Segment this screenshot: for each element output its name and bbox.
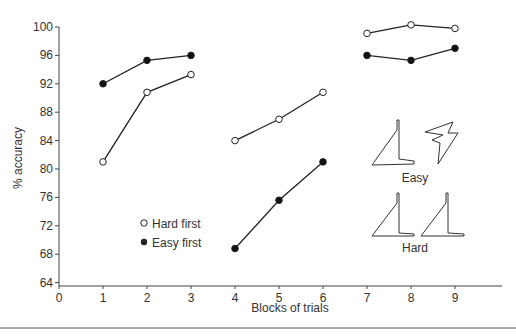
hard-figure-1-icon bbox=[372, 193, 414, 236]
y-tick-label: 84 bbox=[40, 134, 54, 148]
easy-first-point bbox=[364, 52, 371, 59]
easy-label: Easy bbox=[402, 171, 429, 185]
x-tick-label: 7 bbox=[364, 291, 371, 305]
series-line bbox=[235, 162, 323, 249]
hard-first-point bbox=[232, 137, 239, 144]
y-tick-label: 68 bbox=[40, 247, 54, 261]
hard-first-point bbox=[276, 116, 283, 123]
open-circle-icon bbox=[141, 220, 147, 226]
x-tick-label: 8 bbox=[408, 291, 415, 305]
y-tick-label: 92 bbox=[40, 77, 54, 91]
easy-first-point bbox=[188, 52, 195, 59]
hard-first-point bbox=[320, 89, 327, 96]
easy-figure-2-icon bbox=[425, 122, 458, 164]
easy-first-point bbox=[320, 159, 327, 166]
easy-first-point bbox=[276, 197, 283, 204]
hard-label: Hard bbox=[402, 241, 428, 255]
hard-first-point bbox=[100, 159, 107, 166]
hard-first-point bbox=[408, 22, 415, 29]
y-tick-label: 72 bbox=[40, 219, 54, 233]
easy-first-point bbox=[452, 45, 459, 52]
filled-circle-icon bbox=[141, 239, 147, 245]
y-tick-label: 80 bbox=[40, 162, 54, 176]
x-axis-label: Blocks of trials bbox=[251, 301, 328, 315]
x-tick-label: 1 bbox=[100, 291, 107, 305]
hard-first-point bbox=[188, 71, 195, 78]
x-tick-label: 2 bbox=[144, 291, 151, 305]
x-tick-label: 9 bbox=[452, 291, 459, 305]
easy-figure-1-icon bbox=[372, 120, 414, 165]
easy-first-point bbox=[408, 57, 415, 64]
easy-first-point bbox=[100, 81, 107, 88]
y-tick-label: 96 bbox=[40, 48, 54, 62]
legend-hard-first: Hard first bbox=[152, 217, 201, 231]
y-tick-label: 76 bbox=[40, 190, 54, 204]
hard-first-point bbox=[144, 89, 151, 96]
line-chart: 6468727680848892961000123456789 Hard fir… bbox=[0, 0, 516, 336]
y-tick-label: 100 bbox=[33, 20, 53, 34]
stimulus-figures: Easy Hard bbox=[372, 120, 464, 255]
y-axis-label: % accuracy bbox=[11, 127, 25, 189]
x-tick-label: 4 bbox=[232, 291, 239, 305]
legend: Hard first Easy first bbox=[141, 217, 202, 250]
y-tick-label: 64 bbox=[40, 276, 54, 290]
hard-first-point bbox=[452, 25, 459, 32]
easy-first-point bbox=[144, 57, 151, 64]
legend-easy-first: Easy first bbox=[152, 236, 202, 250]
easy-first-point bbox=[232, 245, 239, 252]
series-line bbox=[103, 75, 191, 162]
y-tick-label: 88 bbox=[40, 105, 54, 119]
hard-first-point bbox=[364, 30, 371, 37]
x-tick-label: 0 bbox=[56, 291, 63, 305]
hard-figure-2-icon bbox=[421, 193, 464, 236]
x-tick-label: 3 bbox=[188, 291, 195, 305]
